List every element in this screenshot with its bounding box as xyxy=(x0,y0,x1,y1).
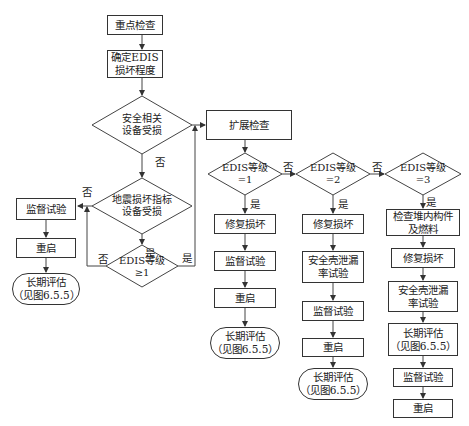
col2-supervise-box: 监督试验 xyxy=(302,301,364,321)
col2-leak-test-box: 安全壳泄漏 率试验 xyxy=(302,251,364,283)
edge-label-seismic-no: 否 xyxy=(82,186,92,198)
col1-repair-box: 修复损坏 xyxy=(214,214,276,234)
key-check-box: 重点检查 xyxy=(107,15,163,35)
col3-leak-test-box: 安全壳泄漏 率试验 xyxy=(388,281,458,312)
edge-label-edis2-yes: 是 xyxy=(338,198,348,210)
col3-repair-box: 修复损坏 xyxy=(391,248,455,268)
col1-supervise-box: 监督试验 xyxy=(214,251,276,271)
edis2-decision: EDIS等级 =2 xyxy=(302,161,364,187)
left-restart-box: 重启 xyxy=(16,238,76,258)
col3-restart-box: 重启 xyxy=(393,399,453,418)
edge-label-edisge1-yes: 是 xyxy=(182,252,192,264)
determine-edis-box: 确定EDIS 损坏程度 xyxy=(107,50,163,78)
edge-label-safety-no: 否 xyxy=(155,156,165,168)
col3-supervise-box: 监督试验 xyxy=(393,368,453,387)
col3-inspect-box: 检查堆内构件 及燃料 xyxy=(386,209,460,236)
edis-ge1-decision: EDIS等级 ≥1 xyxy=(112,254,172,280)
col2-repair-box: 修复损坏 xyxy=(302,214,364,234)
col1-restart-box: 重启 xyxy=(214,288,276,308)
edge-label-edis3-yes: 是 xyxy=(426,196,436,208)
left-longterm-terminal: 长期评估 （见图6.5.5） xyxy=(12,273,80,305)
extended-check-box: 扩展检查 xyxy=(206,110,292,140)
seismic-damaged-decision: 地震损坏指标 设备受损 xyxy=(96,192,188,220)
edge-label-edisge1-no: 否 xyxy=(98,253,108,265)
edis3-decision: EDIS等级 =3 xyxy=(392,161,454,187)
col2-longterm-terminal: 长期评估 （见图6.5.5） xyxy=(298,368,368,400)
edis1-decision: EDIS等级 =1 xyxy=(214,161,276,187)
edge-label-edis1-no: 否 xyxy=(283,161,293,173)
col1-longterm-terminal: 长期评估 （见图6.5.5） xyxy=(210,327,280,359)
safety-damaged-decision: 安全相关 设备受损 xyxy=(100,110,184,140)
left-supervise-box: 监督试验 xyxy=(16,198,76,220)
edge-label-edis2-no: 否 xyxy=(372,161,382,173)
edge-label-seismic-yes-visible: 是 xyxy=(145,247,155,259)
flowchart: 重点检查 确定EDIS 损坏程度 安全相关 设备受损 扩展检查 地震损坏指标 设… xyxy=(0,0,469,426)
col3-longterm-box: 长期评估 （见图6.5.5） xyxy=(388,323,458,356)
edge-label-edis1-yes: 是 xyxy=(250,198,260,210)
col2-restart-box: 重启 xyxy=(302,338,364,357)
